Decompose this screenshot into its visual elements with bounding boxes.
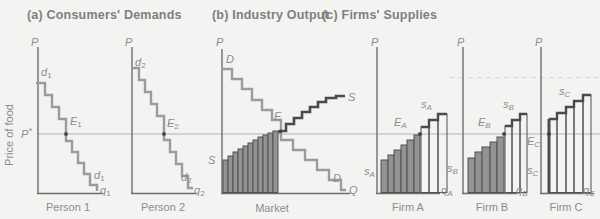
firm-c-qc-axis-label-text: C <box>589 189 595 198</box>
person2-equilibrium-dot <box>162 132 165 135</box>
firm-c-p-axis-label: P <box>535 37 542 48</box>
market-shaded-bars <box>258 137 263 193</box>
firm-b-shaded-bars <box>497 137 504 193</box>
firm-a-shaded-bars <box>414 135 420 193</box>
person2-e2-label: E2 <box>167 118 179 131</box>
market-shaded-bars <box>233 152 238 193</box>
firm-c-ec-label-text: C <box>534 140 540 149</box>
firm-a-qa-axis-label-text: A <box>447 189 452 198</box>
market-shaded-bars <box>268 133 273 193</box>
person2-e2-label-text: 2 <box>174 122 178 131</box>
firm-b-shaded-bars <box>475 152 482 193</box>
firm-a-shaded-bars <box>401 145 407 193</box>
person1-d1-upper-label-text: 1 <box>47 71 51 80</box>
firm-c-p-axis-label-text: P <box>535 36 542 48</box>
y-axis-title-price-of-food-text: Price of food <box>3 104 15 166</box>
person1-caption: Person 1 <box>46 201 90 213</box>
market-shaded-bars <box>243 146 248 193</box>
market-demand-upper-label-text: D <box>226 53 234 65</box>
firm-a-p-axis-label-text: P <box>371 36 378 48</box>
title-b-text: (b) Industry Output <box>212 8 329 22</box>
firm-a-shaded-bars <box>388 155 394 193</box>
firm-b-unshaded-bars <box>512 120 520 193</box>
market-shaded-bars <box>223 160 228 193</box>
market-e-label-text: E <box>274 110 281 122</box>
firm-c-supply-lower-label-text: C <box>533 169 539 178</box>
market-shaded-bars <box>273 131 278 193</box>
firm-c-supply-lower-label: sC <box>527 165 538 178</box>
person2-d2-upper-label: d2 <box>135 57 146 70</box>
firm-b-qb-axis-label-text: B <box>522 189 527 198</box>
person1-demand-curve <box>36 83 97 191</box>
market-supply-upper-label: S <box>348 92 355 103</box>
firm-a-unshaded-bars <box>429 120 438 193</box>
market-caption: Market <box>255 202 289 214</box>
market-demand-upper-label: D <box>226 54 234 65</box>
firm-b-shaded-bars <box>468 158 475 193</box>
market-q-axis-label: Q <box>349 185 358 196</box>
firm-c-ec-label: EC <box>527 136 540 149</box>
person2-demand-curve <box>132 68 193 188</box>
firm-b-p-axis-label: P <box>457 37 464 48</box>
person1-p-axis-label-text: P <box>31 36 38 48</box>
firm-b-supply-lower-label-text: B <box>453 167 458 176</box>
y-axis-title-price-of-food: Price of food <box>3 104 15 166</box>
market-shaded-bars <box>228 156 233 193</box>
firm-a-unshaded-bars <box>438 114 447 193</box>
firm-a-unshaded-bars <box>421 127 429 193</box>
firm-a-qa-axis-label: qA <box>441 185 452 198</box>
market-supply-lower-label: S <box>208 155 215 166</box>
title-a-text: (a) Consumers' Demands <box>27 8 182 22</box>
firm-b-supply-upper-label-text: B <box>509 103 514 112</box>
market-e-label: E <box>274 111 281 122</box>
firm-b-unshaded-bars <box>520 114 527 193</box>
title-a: (a) Consumers' Demands <box>27 8 182 22</box>
firm-b-caption-text: Firm B <box>476 201 508 213</box>
title-c-text: (c) Firms' Supplies <box>322 8 437 22</box>
firm-b-unshaded-bars <box>505 126 512 193</box>
firm-a-ea-label-text: A <box>401 121 406 130</box>
firm-c-equilibrium-dot <box>547 132 550 135</box>
person1-q1-axis-label-text: 1 <box>106 189 110 198</box>
firm-a-shaded-bars <box>407 140 414 193</box>
market-shaded-bars <box>253 140 258 193</box>
person2-q2-axis-label: q2 <box>194 185 205 198</box>
market-q-axis-label-text: Q <box>349 184 358 196</box>
person1-q1-axis-label: q1 <box>100 185 111 198</box>
market-supply-upper-label-text: S <box>348 91 355 103</box>
person1-d1-lower-label: d1 <box>94 170 105 183</box>
firm-b-p-axis-label-text: P <box>457 36 464 48</box>
market-supply-lower-label-text: S <box>208 154 215 166</box>
firm-c-unshaded-bars <box>583 95 591 193</box>
market-p-axis-label: P <box>216 37 223 48</box>
market-shaded-bars <box>263 135 268 193</box>
pstar-label-text: * <box>28 126 32 136</box>
market-equilibrium-dot <box>278 130 281 133</box>
firm-b-supply-curve-upper <box>505 114 527 126</box>
market-caption-text: Market <box>255 202 289 214</box>
firm-b-eb-label-text: B <box>485 121 490 130</box>
firm-c-unshaded-bars <box>566 107 574 193</box>
person1-caption-text: Person 1 <box>46 201 90 213</box>
market-shaded-bars <box>248 143 253 193</box>
firm-a-caption-text: Firm A <box>392 201 424 213</box>
market-p-axis-label-text: P <box>216 36 223 48</box>
firm-b-supply-upper-label: sB <box>503 99 514 112</box>
person2-p-axis-label-text: P <box>125 36 132 48</box>
firm-a-equilibrium-dot <box>418 132 421 135</box>
firm-b-shaded-bars <box>482 147 490 193</box>
firm-b-eb-label: EB <box>478 117 491 130</box>
firm-c-unshaded-bars <box>557 113 566 193</box>
firm-a-ea-label: EA <box>394 117 407 130</box>
firm-a-supply-lower-label-text: A <box>370 170 375 179</box>
firm-b-caption: Firm B <box>476 201 508 213</box>
firm-a-supply-upper-label: sA <box>421 99 432 112</box>
person2-caption: Person 2 <box>141 201 185 213</box>
title-c: (c) Firms' Supplies <box>322 8 437 22</box>
person2-d2-lower-label: d2 <box>181 172 192 185</box>
market-demand-lower-label: D <box>333 173 341 184</box>
economics-figure: (a) Consumers' Demands(b) Industry Outpu… <box>0 0 600 219</box>
person2-p-axis-label: P <box>125 37 132 48</box>
person1-e1-label-text: 1 <box>77 120 81 129</box>
firm-b-shaded-bars <box>490 142 497 193</box>
